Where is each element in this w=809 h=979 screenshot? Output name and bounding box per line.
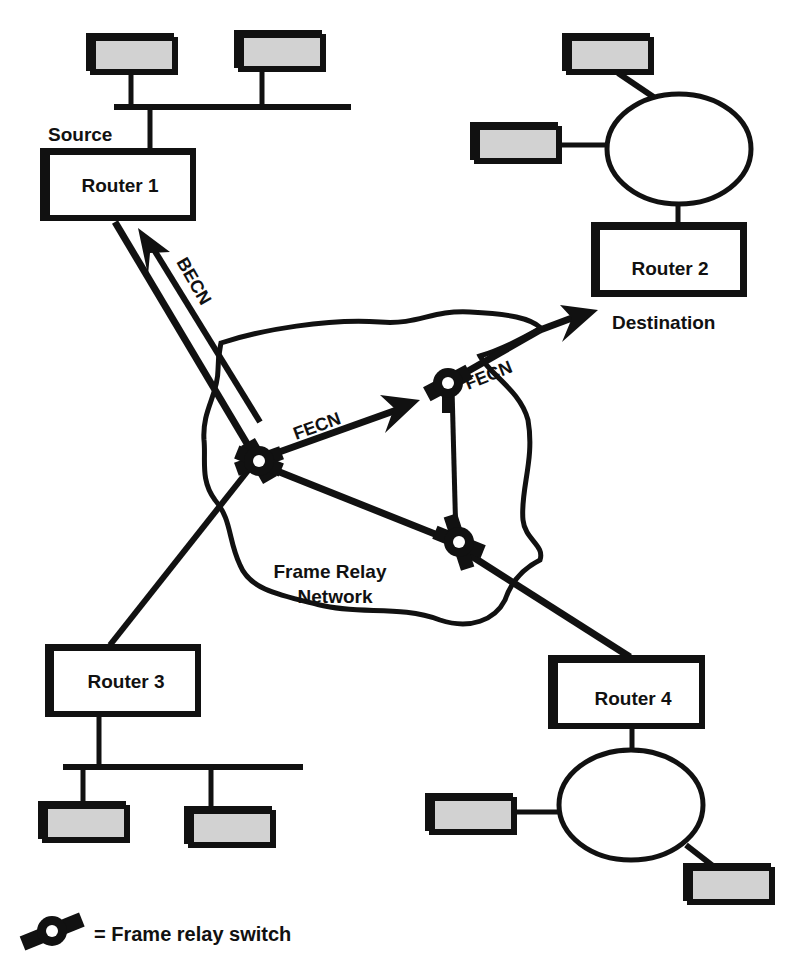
workstation-icon	[184, 806, 276, 848]
router-4-lan	[425, 729, 775, 905]
workstation-icon	[86, 33, 178, 75]
switch-icon	[433, 368, 463, 398]
workstation-icon	[562, 33, 654, 75]
destination-label: Destination	[612, 312, 715, 333]
switch-icon	[244, 446, 274, 476]
becn-arrow	[148, 240, 260, 422]
network-label-line2: Network	[298, 586, 373, 607]
legend: = Frame relay switch	[20, 913, 292, 951]
becn-label: BECN	[173, 254, 216, 308]
legend-label: = Frame relay switch	[94, 923, 291, 945]
router-1[interactable]: Router 1	[40, 148, 196, 221]
lan-ring	[607, 94, 751, 204]
router-2-label: Router 2	[631, 258, 708, 279]
source-label: Source	[48, 124, 112, 145]
workstation-icon	[234, 30, 326, 72]
frame-relay-diagram: Source Router 1 Router 2 Destination Fra…	[0, 0, 809, 979]
router-2[interactable]: Router 2	[591, 222, 747, 297]
router-4[interactable]: Router 4	[548, 655, 705, 729]
link-a-router3	[110, 468, 250, 645]
router-3-lan	[38, 717, 303, 848]
router-4-label: Router 4	[594, 688, 672, 709]
router-3-label: Router 3	[87, 671, 164, 692]
switch-icon	[444, 527, 474, 557]
router-1-lan	[86, 30, 351, 150]
workstation-icon	[470, 122, 562, 164]
frame-relay-switch-icon	[20, 913, 85, 951]
link-c-router4	[462, 550, 630, 657]
network-label-line1: Frame Relay	[273, 561, 386, 582]
router-3[interactable]: Router 3	[45, 644, 201, 717]
workstation-icon	[38, 801, 130, 843]
workstation-icon	[425, 793, 517, 835]
workstation-icon	[683, 863, 775, 905]
link-router1-switch-a	[115, 222, 252, 452]
frame-relay-switch-b[interactable]	[423, 365, 473, 413]
router-2-lan	[470, 33, 751, 225]
lan-ring	[559, 750, 703, 860]
router-1-label: Router 1	[81, 175, 159, 196]
link-a-c	[262, 465, 455, 542]
